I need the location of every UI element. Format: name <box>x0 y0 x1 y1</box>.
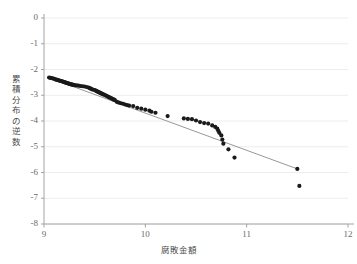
y-tick-label: -1 <box>31 38 39 48</box>
axis-lines <box>44 14 354 224</box>
y-tick-label: 0 <box>34 12 39 22</box>
y-tick-label: -3 <box>31 89 39 99</box>
y-tick-label: -6 <box>31 167 39 177</box>
y-tick-label: -2 <box>31 64 39 74</box>
y-axis-title-char: 累 <box>9 74 23 85</box>
chart-figure: 0-1-2-3-4-5-6-7-8 9101112 累積分布の逆数 腐敗金額 <box>0 0 357 264</box>
x-tick-label: 11 <box>232 229 262 239</box>
y-tick-label: -5 <box>31 141 39 151</box>
y-axis-title-char: の <box>9 116 23 127</box>
regression-line <box>49 78 297 169</box>
x-tick-label: 9 <box>29 229 59 239</box>
y-axis-title: 累積分布の逆数 <box>9 74 23 148</box>
y-tick-label: -8 <box>31 218 39 228</box>
x-tick-label: 10 <box>130 229 160 239</box>
tick-marks <box>41 18 348 228</box>
y-axis-title-char: 積 <box>9 84 23 95</box>
x-axis-title: 腐敗金額 <box>0 243 357 255</box>
y-axis-title-char: 逆 <box>9 126 23 137</box>
y-tick-label: -4 <box>31 115 39 125</box>
x-tick-label: 12 <box>333 229 357 239</box>
y-axis-title-char: 分 <box>9 95 23 106</box>
scatter-plot-canvas <box>0 0 357 264</box>
data-points <box>47 75 301 188</box>
y-axis-title-char: 数 <box>9 137 23 148</box>
y-tick-label: -7 <box>31 192 39 202</box>
y-axis-title-char: 布 <box>9 105 23 116</box>
